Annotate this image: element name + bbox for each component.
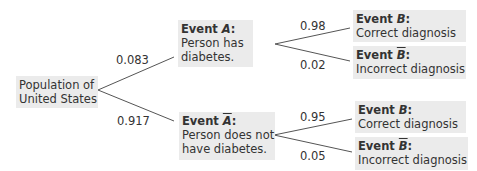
root-label-line1: Population of [19,78,95,92]
leaf-a-event-b: Event B: Correct diagnosis [353,10,466,42]
node-event-a: Event A: Person has diabetes. [178,20,253,67]
prob-not-b-given-not-a: 0.05 [300,149,326,163]
leaf-desc: Incorrect diagnosis [358,153,465,167]
symbol-b-bar: B [397,48,406,62]
leaf-desc: Incorrect diagnosis [356,62,463,76]
symbol-a-bar: A [223,114,232,128]
leaf-not-a-event-b: Event B: Correct diagnosis [355,101,466,133]
leaf-heading: Event B: [356,48,463,62]
leaf-heading: Event B: [358,139,465,153]
symbol-b: B [399,103,408,117]
leaf-desc: Correct diagnosis [356,26,463,40]
symbol-b: B [397,12,406,26]
leaf-heading: Event B: [358,103,463,117]
root-label-line2: United States [19,92,95,106]
prob-b-given-a: 0.98 [300,19,326,33]
prob-a: 0.083 [116,53,149,67]
prob-not-b-given-a: 0.02 [300,58,326,72]
event-a-heading: Event A: [181,22,250,36]
event-a-desc-line2: diabetes. [181,50,250,64]
symbol-b-bar: B [399,139,408,153]
leaf-desc: Correct diagnosis [358,117,463,131]
prob-not-a: 0.917 [117,114,150,128]
leaf-heading: Event B: [356,12,463,26]
leaf-not-a-event-not-b: Event B: Incorrect diagnosis [355,137,468,170]
event-not-a-desc-line1: Person does not [182,128,272,142]
leaf-a-event-not-b: Event B: Incorrect diagnosis [353,46,466,79]
symbol-a: A [222,22,231,36]
prob-b-given-not-a: 0.95 [300,110,326,124]
node-event-not-a: Event A: Person does not have diabetes. [179,112,275,160]
event-not-a-heading: Event A: [182,114,272,128]
root-node-population: Population of United States [16,76,98,108]
event-not-a-desc-line2: have diabetes. [182,142,272,156]
event-a-desc-line1: Person has [181,36,250,50]
